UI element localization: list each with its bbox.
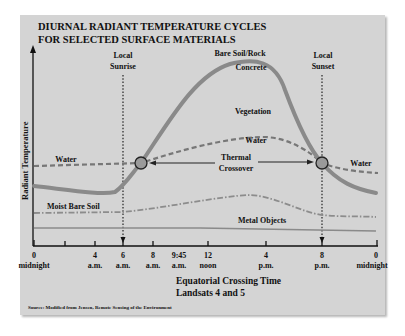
crossover-point-evening <box>316 157 328 169</box>
sunset-label-2: Sunset <box>312 62 335 71</box>
chart-title: DIURNAL RADIANT TEMPERATURE CYCLES <box>38 21 267 32</box>
label-bare-soil-rock: Bare Soil/Rock <box>214 49 266 58</box>
y-axis-label: Radiant Temperature <box>20 121 30 200</box>
svg-text:a.m.: a.m. <box>88 261 103 270</box>
label-vegetation: Vegetation <box>235 107 272 116</box>
svg-text:8: 8 <box>151 251 155 260</box>
svg-text:12: 12 <box>204 251 212 260</box>
label-water-left: Water <box>55 155 77 164</box>
series-metal-objects <box>34 228 376 231</box>
sunrise-arrow-icon <box>121 237 126 243</box>
svg-text:p.m.: p.m. <box>314 261 329 270</box>
label-moist-bare-soil: Moist Bare Soil <box>47 202 101 211</box>
arrow-right-icon <box>307 160 314 165</box>
thermal-crossover-label-2: Crossover <box>219 164 254 173</box>
svg-text:midnight: midnight <box>18 261 49 270</box>
thermal-crossover-label: Thermal <box>221 153 252 162</box>
svg-text:6: 6 <box>121 251 125 260</box>
svg-text:a.m.: a.m. <box>116 261 131 270</box>
source-note: Source: Modified from Jensen, Remote Sen… <box>28 305 172 310</box>
svg-text:0: 0 <box>374 251 378 260</box>
sunset-label: Local <box>313 51 333 60</box>
series-bare-soil-concrete <box>34 61 376 193</box>
svg-text:0: 0 <box>32 251 36 260</box>
svg-text:p.m.: p.m. <box>258 261 273 270</box>
x-axis-ticks <box>34 240 377 246</box>
chart-subtitle: FOR SELECTED SURFACE MATERIALS <box>38 34 236 45</box>
sunrise-label-2: Sunrise <box>110 62 136 71</box>
label-metal-objects: Metal Objects <box>238 216 286 225</box>
crossover-point-morning <box>135 157 147 169</box>
svg-text:8: 8 <box>320 251 324 260</box>
svg-text:a.m.: a.m. <box>146 261 161 270</box>
svg-text:9:45: 9:45 <box>172 251 187 260</box>
svg-text:4: 4 <box>93 251 97 260</box>
label-water-center: Water <box>245 136 267 145</box>
x-axis-label: Equatorial Crossing Time <box>176 276 281 286</box>
chart-svg: DIURNAL RADIANT TEMPERATURE CYCLES FOR S… <box>0 0 405 336</box>
sunset-arrow-icon <box>320 237 325 243</box>
label-concrete: Concrete <box>236 63 267 72</box>
label-water-right: Water <box>350 159 372 168</box>
sunrise-label: Local <box>113 51 133 60</box>
svg-text:a.m.: a.m. <box>172 261 187 270</box>
x-axis-sublabel: Landsats 4 and 5 <box>176 288 245 298</box>
svg-text:noon: noon <box>200 261 217 270</box>
svg-text:4: 4 <box>264 251 268 260</box>
y-axis-arrow-icon <box>30 45 36 53</box>
svg-text:midnight: midnight <box>356 261 387 270</box>
x-tick-labels: 0 midnight 4 a.m. 6 a.m. 8 a.m. 9:45 a.m… <box>18 251 387 270</box>
